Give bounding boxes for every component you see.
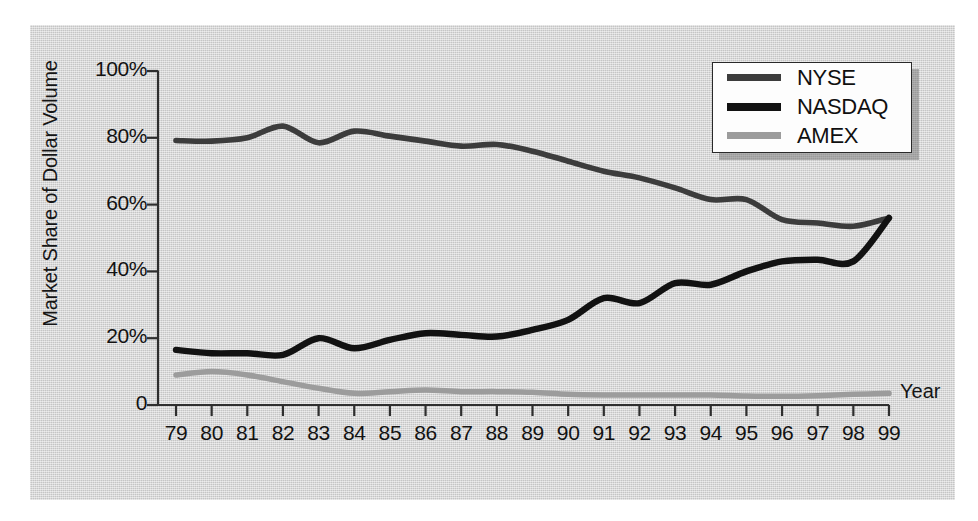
legend-item-amex: AMEX <box>713 121 911 150</box>
legend-item-nyse: NYSE <box>713 63 911 92</box>
legend-swatch-nyse <box>727 74 781 81</box>
series-line-nasdaq <box>176 218 889 356</box>
series-line-amex <box>176 372 889 397</box>
legend-item-nasdaq: NASDAQ <box>713 92 911 121</box>
legend-swatch-amex <box>727 132 781 139</box>
chart-figure: Market Share of Dollar Volume 020%40%60%… <box>0 0 978 521</box>
legend-label-nasdaq: NASDAQ <box>797 96 888 118</box>
chart-legend: NYSE NASDAQ AMEX <box>712 62 912 153</box>
legend-label-amex: AMEX <box>797 125 858 147</box>
legend-label-nyse: NYSE <box>797 67 856 89</box>
legend-swatch-nasdaq <box>727 103 781 111</box>
